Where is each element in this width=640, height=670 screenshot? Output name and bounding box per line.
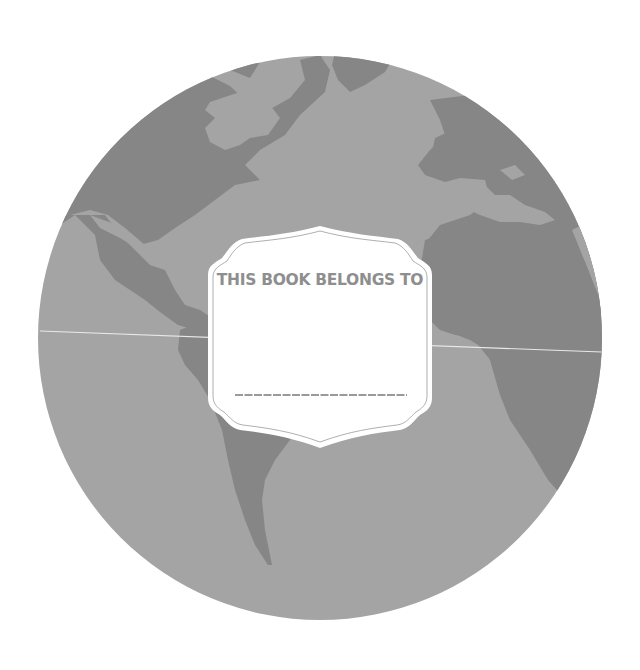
bookplate-frame [208,226,432,448]
bookplate-label [208,226,432,448]
globe-illustration [0,0,640,670]
bookplate-heading: THIS BOOK BELONGS TO [0,271,640,289]
